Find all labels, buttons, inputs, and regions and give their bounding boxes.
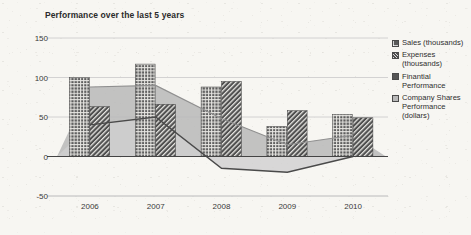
y-axis-tick-label: 50 xyxy=(14,113,48,122)
x-axis-tick-label: 2009 xyxy=(257,202,317,211)
y-axis-tick-label: 0 xyxy=(14,152,48,161)
legend-item-label: Company Shares Performance (dollars) xyxy=(402,93,471,121)
legend-item[interactable]: Finantial Performance xyxy=(392,72,471,90)
y-axis-tick-label: -50 xyxy=(14,192,48,201)
legend-item[interactable]: Expenses (thousands) xyxy=(392,50,471,68)
legend-item-label: Sales (thousands) xyxy=(402,38,463,47)
legend-item[interactable]: Sales (thousands) xyxy=(392,38,471,47)
chart-page: Performance over the last 5 years 150100… xyxy=(0,0,471,235)
shares-swatch xyxy=(392,95,399,102)
x-axis-tick-label: 2008 xyxy=(192,202,252,211)
expenses-swatch xyxy=(392,52,399,59)
x-axis-tick-label: 2010 xyxy=(323,202,383,211)
financial-swatch xyxy=(392,73,399,80)
y-axis-tick-label: 150 xyxy=(14,34,48,43)
legend-item-label: Finantial Performance xyxy=(402,72,471,90)
legend-item-label: Expenses (thousands) xyxy=(402,50,471,68)
chart-legend: Sales (thousands)Expenses (thousands)Fin… xyxy=(392,38,471,124)
legend-item[interactable]: Company Shares Performance (dollars) xyxy=(392,93,471,121)
x-axis-tick-label: 2006 xyxy=(60,202,120,211)
x-axis-tick-label: 2007 xyxy=(126,202,186,211)
sales-swatch xyxy=(392,40,399,47)
y-axis-tick-label: 100 xyxy=(14,73,48,82)
